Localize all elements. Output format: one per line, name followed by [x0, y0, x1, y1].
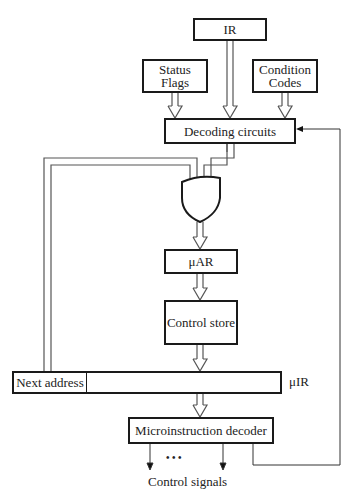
uir-register: Next address: [12, 371, 282, 394]
ir-label: IR: [224, 23, 237, 36]
condition-codes-box: Condition Codes: [252, 59, 318, 93]
bus-arrow-status-flags: [168, 92, 182, 118]
condition-codes-label-2: Codes: [269, 76, 302, 89]
control-store-box: Control store: [164, 300, 238, 345]
bus-arrow-uir-to-decoder: [193, 393, 207, 417]
microinstruction-decoder-label: Microinstruction decoder: [135, 424, 267, 437]
bus-arrow-control-store-to-uir: [193, 344, 207, 371]
bus-arrow-gate-to-uar: [193, 222, 207, 249]
feedback-line: [253, 129, 340, 465]
uar-label: μAR: [188, 255, 213, 268]
uar-box: μAR: [164, 249, 238, 274]
ir-box: IR: [193, 18, 267, 41]
next-address-label: Next address: [16, 376, 84, 389]
decoding-circuits-box: Decoding circuits: [164, 118, 296, 144]
microinstruction-decoder-box: Microinstruction decoder: [128, 417, 274, 444]
decoding-circuits-label: Decoding circuits: [184, 125, 276, 138]
feedback-arrowhead: [296, 126, 303, 132]
bus-arrow-uar-to-control-store: [193, 273, 207, 300]
status-flags-label-2: Flags: [161, 76, 189, 89]
or-gate: [182, 177, 220, 222]
uir-label: μIR: [289, 375, 309, 388]
status-flags-box: Status Flags: [142, 59, 208, 93]
control-signals-label: Control signals: [148, 475, 227, 488]
control-store-label: Control store: [167, 316, 235, 329]
bus-arrow-condition-codes: [278, 92, 292, 118]
next-address-field: Next address: [14, 373, 87, 392]
control-signal-arrows: [147, 443, 226, 470]
bus-arrow-ir: [223, 40, 237, 118]
control-signals-ellipsis: • • •: [166, 451, 182, 464]
